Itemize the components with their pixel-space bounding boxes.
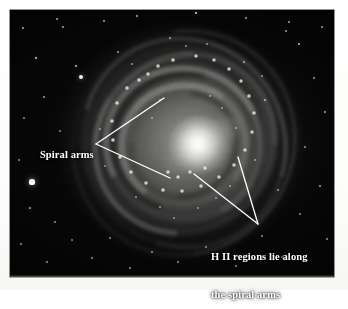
hii-region-knot [176,175,180,179]
hii-region-knot [161,188,164,191]
annotation-hii-line1: H II regions lie along [211,251,308,264]
field-star [136,15,138,17]
field-star [245,17,247,19]
annotation-spiral-arms-line1: Spiral arms [40,149,94,160]
hii-region-knot [129,170,132,173]
annotation-hii-line2: the spiral arms [211,289,308,302]
field-star [91,257,93,259]
hii-region-knot [125,86,128,89]
hii-region-knot [111,138,114,141]
field-star [29,179,34,184]
field-star [326,238,328,240]
field-star [54,221,56,223]
field-star [18,159,20,161]
field-star [321,26,323,28]
hii-region-knot [250,130,253,133]
hii-region-knot [252,111,255,114]
hii-region-knot [137,78,140,81]
hii-region-knot [118,155,121,158]
field-star [277,189,279,191]
annotation-label-hii-regions: H II regions lie along the spiral arms [211,226,308,309]
hii-region-knot [180,189,183,192]
field-star [319,185,321,187]
field-star [243,61,245,63]
field-star [103,20,105,22]
hii-region-knot [144,181,148,185]
hii-region-knot [199,184,202,187]
field-star [43,96,45,98]
field-star [285,30,287,32]
field-star [129,267,131,269]
field-star [46,261,48,263]
field-star [324,111,326,113]
field-star [151,251,153,253]
hii-region-knot [156,64,159,67]
field-star [22,27,24,29]
annotation-label-spiral-arms: Spiral arms [29,136,94,174]
galaxy-nucleus [168,116,230,174]
hii-region-knot [217,175,221,179]
field-star [299,213,301,215]
field-star [313,77,315,79]
hii-region-knot [115,101,118,104]
hii-region-knot [227,67,230,70]
field-star [109,237,111,239]
field-star [20,243,22,245]
hii-region-knot [232,163,235,166]
field-star [288,21,290,23]
field-star [169,37,171,39]
hii-region-knot [203,166,206,169]
field-star [117,51,119,53]
hii-region-knot [146,72,150,76]
field-star [177,261,179,263]
hii-region-knot [166,170,169,173]
hii-region-knot [171,58,174,61]
hii-region-knot [212,58,216,62]
field-star [62,26,64,28]
hii-region-knot [247,94,250,97]
field-star [304,146,306,148]
hii-region-knot [243,148,247,152]
field-star [71,239,73,241]
field-star [23,117,25,119]
hii-region-knot [194,54,198,58]
hii-region-knot [239,79,243,83]
field-star [56,18,58,20]
field-star [59,130,61,132]
field-star [205,246,207,248]
hii-region-knot [110,119,113,122]
